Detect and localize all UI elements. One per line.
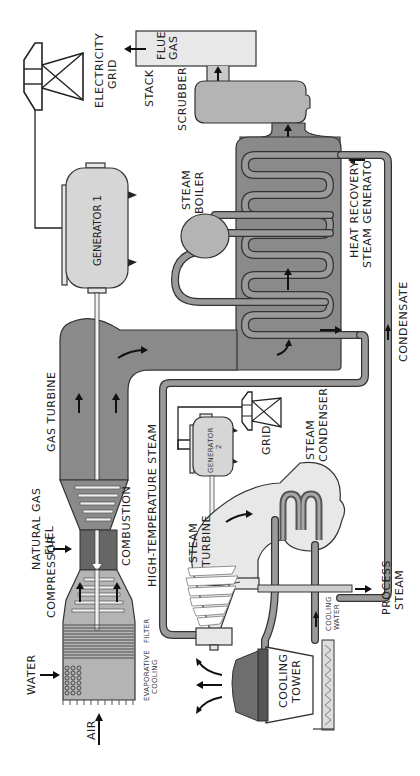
steam-boiler-label: STEAM xyxy=(180,170,193,210)
cooling-tower-label-2: TOWER xyxy=(290,660,303,704)
condensate-label: CONDENSATE xyxy=(397,281,410,362)
hrsg-label: HEAT RECOVERY xyxy=(348,161,361,258)
exhaust-arrows xyxy=(196,658,222,714)
natural-gas-label: NATURAL GAS xyxy=(30,487,43,570)
cooling-tower-fan xyxy=(232,651,258,721)
steam-condenser-label-2: CONDENSER xyxy=(317,388,330,462)
water-label: WATER xyxy=(25,654,38,695)
cooling-water-label-2: WATER xyxy=(333,604,341,630)
cooling-water-basin xyxy=(322,640,334,730)
generator-2-label: GENERATOR xyxy=(207,427,215,473)
steam-turbine-inlet xyxy=(196,628,232,645)
stack-label: STACK xyxy=(143,69,156,107)
process-steam-label: PROCESS xyxy=(380,560,393,615)
steam-turbine-label-2: TURBINE xyxy=(200,515,213,568)
electricity-grid-label: ELECTRICITY xyxy=(93,33,106,108)
cooling-water-label: COOLING xyxy=(325,596,333,631)
scrubber-label: SCRUBBER xyxy=(176,67,189,131)
water-arrow xyxy=(40,671,60,679)
gas-turbine-label: GAS TURBINE xyxy=(45,372,58,452)
evaporative-cooling-label-2: COOLING xyxy=(151,659,159,694)
grid-tower-icon xyxy=(242,392,281,430)
process-steam-arrow xyxy=(355,585,372,593)
electricity-grid-label-2: GRID xyxy=(106,59,119,89)
filter-label: FILTER xyxy=(143,619,151,643)
high-temperature-steam-label: HIGH-TEMPERATURE STEAM xyxy=(146,424,159,587)
steam-turbine-label: STEAM xyxy=(187,523,200,563)
cooling-tower-label: COOLING xyxy=(277,653,290,708)
electricity-tower-icon xyxy=(24,43,83,110)
generator-2-label-2: 2 xyxy=(215,444,223,449)
process-steam-pipe xyxy=(258,585,352,592)
combustion-label: COMBUSTION xyxy=(120,486,133,566)
compressor-label: COMPRESSOR xyxy=(45,536,58,618)
combined-cycle-diagram: ELECTRICITY GRID FLUE GAS STACK SCRUBBER xyxy=(0,0,420,776)
steam-condenser-label: STEAM xyxy=(304,420,317,460)
steam-boiler-label-2: BOILER xyxy=(193,171,206,214)
grid-wire xyxy=(35,110,62,228)
flue-gas-label-2: GAS xyxy=(167,35,180,60)
evaporative-cooling-label: EVAPORATIVE xyxy=(143,650,151,701)
process-steam-label-2: STEAM xyxy=(393,570,406,610)
stack xyxy=(136,31,256,66)
steam-boiler xyxy=(181,214,229,258)
grid-label: GRID xyxy=(260,425,273,455)
hrsg-label-2: STEAM GENERATOR xyxy=(361,152,374,268)
scrubber xyxy=(195,81,310,123)
generator-1-label: GENERATOR 1 xyxy=(92,195,103,266)
air-label: AIR xyxy=(85,720,98,740)
